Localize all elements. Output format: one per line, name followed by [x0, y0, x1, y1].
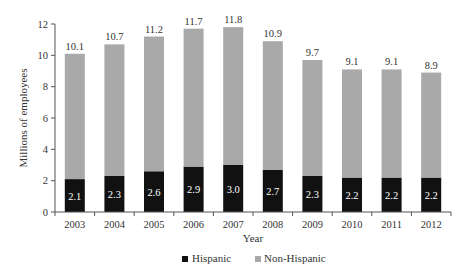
- bar-non-hispanic: [104, 44, 124, 176]
- bar-non-hispanic: [382, 69, 402, 177]
- y-tick-label: 2: [43, 175, 48, 186]
- y-tick-label: 0: [43, 207, 48, 218]
- total-value-label: 9.1: [385, 56, 398, 67]
- y-tick-label: 10: [38, 50, 49, 61]
- total-value-label: 11.2: [145, 24, 163, 35]
- x-tick-label: 2003: [64, 219, 85, 230]
- x-tick-label: 2008: [262, 219, 283, 230]
- hispanic-value-label: 2.3: [306, 189, 319, 200]
- hispanic-value-label: 2.6: [147, 187, 160, 198]
- bar-non-hispanic: [421, 73, 441, 178]
- bar-non-hispanic: [302, 60, 322, 176]
- x-tick-label: 2011: [381, 219, 402, 230]
- total-value-label: 10.9: [264, 28, 282, 39]
- x-tick-label: 2007: [223, 219, 244, 230]
- x-tick-label: 2004: [104, 219, 126, 230]
- bar-non-hispanic: [342, 69, 362, 177]
- bar-non-hispanic: [65, 54, 85, 179]
- hispanic-value-label: 3.0: [227, 184, 240, 195]
- legend-swatch-non-hispanic: [255, 256, 261, 262]
- hispanic-value-label: 2.7: [266, 186, 279, 197]
- hispanic-value-label: 2.2: [345, 190, 358, 201]
- bar-non-hispanic: [223, 27, 243, 165]
- x-tick-label: 2010: [342, 219, 363, 230]
- total-value-label: 11.8: [224, 14, 242, 25]
- legend-label-non-hispanic: Non-Hispanic: [264, 252, 326, 264]
- hispanic-value-label: 2.1: [68, 191, 81, 202]
- hispanic-value-label: 2.2: [425, 190, 438, 201]
- legend-item-hispanic: Hispanic: [182, 252, 231, 264]
- total-value-label: 9.1: [345, 56, 358, 67]
- y-axis-title: Millions of employees: [17, 69, 29, 168]
- y-ticks-group: 024681012: [38, 19, 56, 218]
- total-value-label: 11.7: [185, 16, 203, 27]
- x-tick-label: 2012: [421, 219, 442, 230]
- x-tick-label: 2006: [183, 219, 204, 230]
- legend: Hispanic Non-Hispanic: [182, 252, 326, 264]
- x-tick-label: 2009: [302, 219, 323, 230]
- bar-non-hispanic: [263, 41, 283, 169]
- hispanic-value-label: 2.3: [108, 189, 121, 200]
- x-axis-title: Year: [243, 232, 264, 244]
- y-tick-label: 4: [43, 144, 49, 155]
- hispanic-value-label: 2.9: [187, 184, 200, 195]
- total-value-label: 10.7: [105, 31, 123, 42]
- total-value-label: 10.1: [66, 41, 84, 52]
- total-value-label: 9.7: [306, 47, 319, 58]
- y-tick-label: 8: [43, 81, 48, 92]
- x-ticks-group: 2003200420052006200720082009201020112012: [55, 212, 451, 230]
- total-value-label: 8.9: [425, 60, 438, 71]
- bar-non-hispanic: [144, 37, 164, 172]
- bar-non-hispanic: [184, 29, 204, 167]
- stacked-bar-chart: 024681012 200320042005200620072008200920…: [0, 0, 468, 277]
- x-tick-label: 2005: [144, 219, 165, 230]
- legend-item-non-hispanic: Non-Hispanic: [255, 252, 326, 264]
- bars-group: [65, 27, 441, 212]
- hispanic-value-label: 2.2: [385, 190, 398, 201]
- legend-swatch-hispanic: [182, 256, 188, 262]
- legend-label-hispanic: Hispanic: [192, 252, 231, 264]
- y-tick-label: 12: [38, 19, 49, 30]
- y-tick-label: 6: [43, 113, 48, 124]
